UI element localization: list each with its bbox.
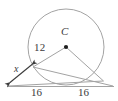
base-left-measure-label: 16 [31,87,42,98]
radius-label: 12 [34,42,45,53]
tangent-length-label: x [14,64,18,74]
center-label: C [61,26,68,37]
center-point-dot [64,45,68,49]
geometry-canvas [0,0,118,101]
left-tangent-line [8,81,104,86]
base-right-measure-label: 16 [78,87,89,98]
right-tangent-line [33,67,113,86]
geometry-figure: 12 C x 16 16 [0,0,118,101]
